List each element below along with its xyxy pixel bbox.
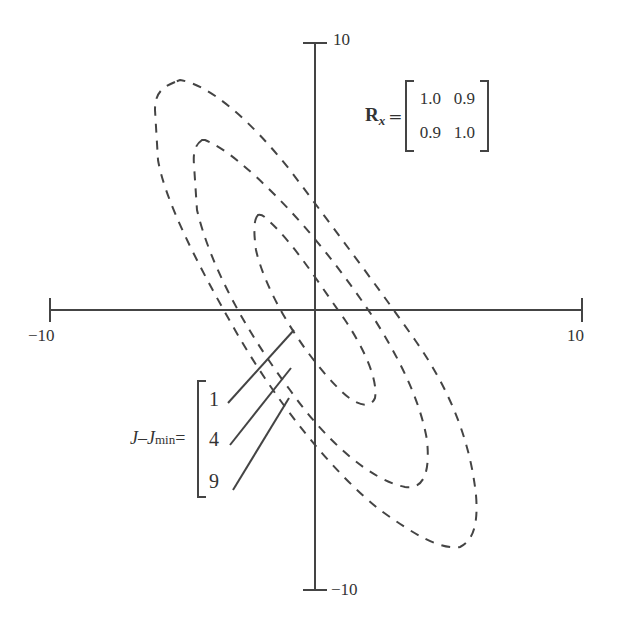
- correlation-matrix: Rx = 1.00.9 0.91.0: [365, 80, 489, 152]
- level-1-label: 1: [209, 388, 219, 411]
- matrix-cell: 1.0: [447, 116, 481, 150]
- matrix-cell: 1.0: [413, 82, 447, 116]
- level-4-label: 4: [209, 428, 219, 451]
- leader-line-9: [233, 398, 289, 490]
- matrix-body: 1.00.9 0.91.0: [405, 80, 489, 152]
- leader-line-4: [230, 368, 291, 445]
- contour-plot: [0, 0, 618, 629]
- contour-legend-label: J–Jmin=: [130, 428, 185, 449]
- x-axis-max-label: 10: [567, 326, 584, 346]
- contour-level-bracket: 1 4 9: [197, 380, 223, 498]
- leader-line-1: [228, 330, 294, 403]
- x-axis-min-label: −10: [28, 326, 55, 346]
- y-axis-max-label: 10: [333, 30, 350, 50]
- matrix-cell: 0.9: [447, 82, 481, 116]
- matrix-row-2: 0.91.0: [413, 116, 481, 150]
- contour-level-4: [194, 140, 428, 487]
- matrix-row-1: 1.00.9: [413, 82, 481, 116]
- matrix-equals: =: [388, 106, 402, 126]
- level-9-label: 9: [209, 470, 219, 493]
- matrix-cell: 0.9: [413, 116, 447, 150]
- matrix-name: Rx: [365, 104, 385, 129]
- y-axis-min-label: −10: [331, 580, 358, 600]
